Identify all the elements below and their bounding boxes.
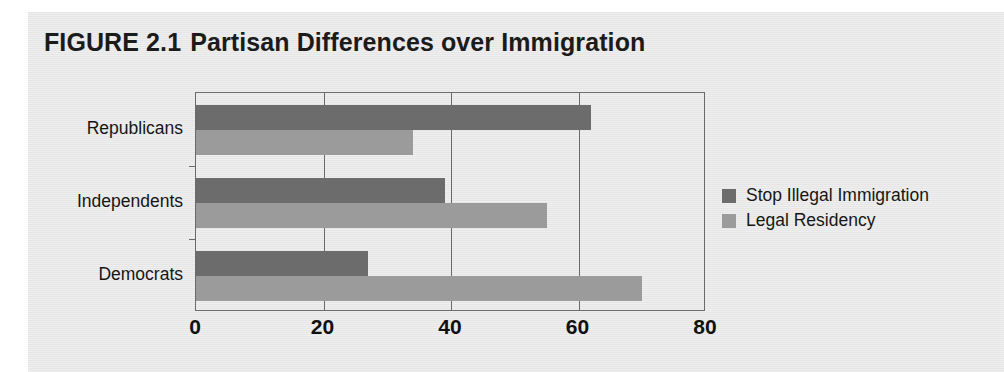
y-axis-tick	[189, 239, 196, 240]
y-axis-category-label: Democrats	[3, 264, 183, 285]
bar-group	[196, 239, 704, 312]
x-axis-tick-label: 60	[566, 315, 589, 339]
legend-swatch	[722, 189, 736, 203]
y-axis-category-label: Republicans	[3, 118, 183, 139]
x-axis-tick-label: 40	[438, 315, 461, 339]
bar	[196, 203, 547, 228]
x-axis-tick-label: 0	[189, 315, 201, 339]
legend-item: Stop Illegal Immigration	[722, 183, 929, 208]
bar	[196, 276, 642, 301]
plot-area	[195, 92, 705, 311]
figure-container: FIGURE 2.1Partisan Differences over Immi…	[0, 0, 1004, 372]
figure-caption-text: Partisan Differences over Immigration	[190, 28, 645, 56]
legend-label: Legal Residency	[746, 210, 875, 231]
bar-group	[196, 93, 704, 166]
x-axis-tick-label: 80	[693, 315, 716, 339]
chart-legend: Stop Illegal ImmigrationLegal Residency	[722, 183, 929, 233]
figure-title: FIGURE 2.1Partisan Differences over Immi…	[44, 28, 645, 57]
y-axis-category-label: Independents	[3, 191, 183, 212]
legend-swatch	[722, 214, 736, 228]
figure-number-label: FIGURE 2.1	[44, 28, 181, 56]
legend-item: Legal Residency	[722, 208, 929, 233]
bar	[196, 178, 445, 203]
legend-label: Stop Illegal Immigration	[746, 185, 929, 206]
bar	[196, 130, 413, 155]
bar	[196, 105, 591, 130]
x-axis-tick-label: 20	[311, 315, 334, 339]
y-axis-tick	[189, 166, 196, 167]
bar-group	[196, 166, 704, 239]
bar	[196, 251, 368, 276]
